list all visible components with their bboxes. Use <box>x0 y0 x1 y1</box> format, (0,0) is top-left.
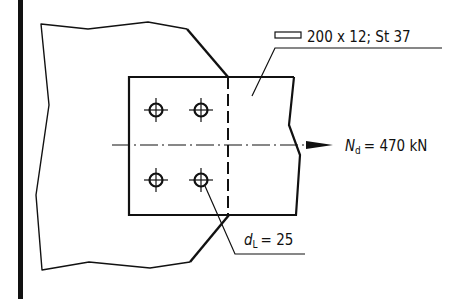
gusset-plate-outline <box>36 22 190 270</box>
bolt-icon <box>144 168 168 192</box>
left-border-bar <box>18 0 23 299</box>
gusset-chamfer-bottom <box>190 215 229 262</box>
bolt-icon <box>144 98 168 122</box>
bolt-icon <box>189 98 213 122</box>
flat-bar-section-icon <box>275 32 301 38</box>
gusset-chamfer-top <box>187 29 228 77</box>
force-label: Nd= 470 kN <box>345 137 427 156</box>
flat-bar-outline <box>129 77 300 215</box>
connection-drawing: 200 x 12; St 37 Nd= 470 kN dL= 25 <box>0 0 469 299</box>
bolt-icon <box>189 168 213 192</box>
force-arrow-icon <box>306 141 333 149</box>
bolt-diameter-label: dL= 25 <box>244 231 293 250</box>
plate-label: 200 x 12; St 37 <box>307 28 411 46</box>
plate-leader-line <box>252 48 442 96</box>
